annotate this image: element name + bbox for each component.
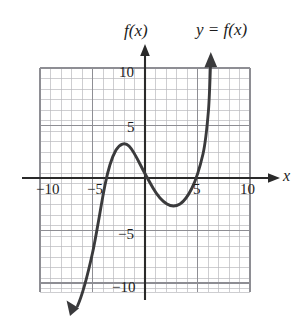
y-tick-label-neg5: −5 [118, 227, 134, 242]
curve-arrowhead-lower-left [67, 300, 80, 316]
x-tick-label-neg5: −5 [87, 182, 103, 197]
x-axis-label: x [283, 168, 290, 184]
x-tick-label-10: 10 [240, 182, 255, 197]
y-tick-label-neg10: −10 [112, 280, 135, 295]
y-axis-arrowhead [140, 44, 150, 56]
x-axis-arrowhead [268, 173, 280, 183]
y-axis-label: f(x) [124, 22, 148, 39]
x-tick-label-neg10: −10 [36, 182, 59, 197]
y-tick-label-10: 10 [119, 65, 134, 80]
curve-label: y = f(x) [196, 21, 247, 38]
curve-arrowhead-upper-right [204, 52, 217, 68]
x-tick-label-5: 5 [193, 182, 201, 197]
function-graph-figure: f(x) y = f(x) x −10 −5 5 10 10 5 −5 −10 [0, 0, 302, 328]
graph-canvas [0, 0, 302, 328]
y-tick-label-5: 5 [127, 120, 135, 135]
